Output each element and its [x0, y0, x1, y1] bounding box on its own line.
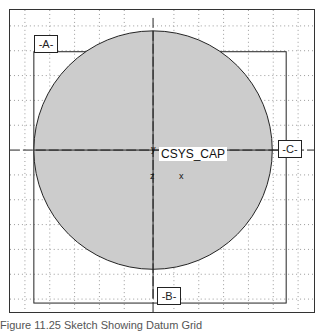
z-axis-label: z — [150, 171, 155, 181]
datum-b-label: -B- — [157, 287, 181, 305]
y-axis-label: y — [151, 144, 156, 154]
csys-label: CSYS_CAP — [159, 147, 227, 161]
x-axis-label: x — [179, 171, 184, 181]
datum-c-label: -C- — [278, 140, 302, 158]
datum-a-label: -A- — [34, 35, 58, 53]
figure-caption: Figure 11.25 Sketch Showing Datum Grid — [0, 318, 326, 332]
sketch-canvas — [10, 10, 314, 312]
sketch-frame: -A- -B- -C- CSYS_CAP y x z — [9, 9, 315, 313]
